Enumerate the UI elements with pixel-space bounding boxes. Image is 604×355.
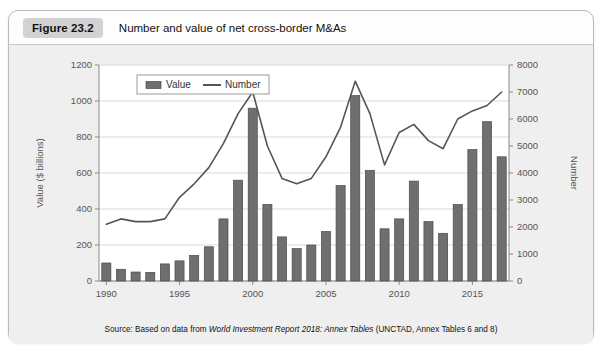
source-note: Source: Based on data from World Investm… — [9, 325, 593, 335]
y-axis-title-left: Value ($ billions) — [34, 138, 45, 208]
y-axis-title-right: Number — [569, 156, 580, 190]
legend-label-value: Value — [166, 79, 191, 90]
y-tick-label-right: 6000 — [517, 113, 538, 124]
figure-body: 0200400600800100012000100020003000400050… — [9, 45, 593, 344]
source-suffix: (UNCTAD, Annex Tables 6 and 8) — [373, 325, 497, 334]
x-tick-label: 2010 — [389, 288, 410, 299]
bar-value — [102, 263, 111, 281]
y-tick-label-right: 4000 — [517, 167, 538, 178]
bar-value — [409, 181, 418, 281]
bar-value — [234, 180, 243, 281]
bar-value — [336, 186, 345, 281]
figure-header: Figure 23.2 Number and value of net cros… — [9, 11, 593, 45]
bar-value — [321, 232, 330, 282]
y-tick-label-left: 800 — [76, 131, 92, 142]
bar-value — [175, 261, 184, 281]
bar-value — [482, 122, 491, 281]
dual-axis-chart: 0200400600800100012000100020003000400050… — [21, 51, 583, 315]
bar-value — [424, 222, 433, 281]
y-tick-label-left: 1000 — [71, 95, 92, 106]
y-tick-label-right: 8000 — [517, 59, 538, 70]
bar-value — [468, 150, 477, 281]
x-tick-label: 1995 — [169, 288, 190, 299]
figure-number-badge: Figure 23.2 — [23, 18, 103, 38]
figure-title: Number and value of net cross-border M&A… — [119, 22, 347, 34]
source-prefix: Source: Based on data from — [105, 325, 209, 334]
y-tick-label-right: 2000 — [517, 221, 538, 232]
y-tick-label-right: 3000 — [517, 194, 538, 205]
y-tick-label-left: 0 — [87, 275, 92, 286]
y-tick-label-left: 200 — [76, 239, 92, 250]
bar-value — [277, 237, 286, 281]
y-tick-label-left: 600 — [76, 167, 92, 178]
bar-value — [292, 249, 301, 281]
bar-value — [380, 229, 389, 281]
bar-value — [219, 219, 228, 281]
y-tick-label-right: 5000 — [517, 140, 538, 151]
legend-label-number: Number — [225, 79, 261, 90]
bar-value — [131, 272, 140, 281]
bar-value — [190, 255, 199, 281]
x-tick-label: 2000 — [242, 288, 263, 299]
y-tick-label-right: 7000 — [517, 86, 538, 97]
bar-value — [160, 264, 169, 281]
figure-card: Figure 23.2 Number and value of net cros… — [8, 10, 594, 343]
bar-value — [248, 108, 257, 281]
bar-value — [453, 205, 462, 282]
x-tick-label: 1990 — [96, 288, 117, 299]
chart-container: 0200400600800100012000100020003000400050… — [21, 51, 583, 315]
y-tick-label-right: 0 — [517, 275, 522, 286]
y-tick-label-left: 400 — [76, 203, 92, 214]
bar-value — [497, 157, 506, 281]
bar-value — [146, 272, 155, 281]
source-publication: World Investment Report 2018: Annex Tabl… — [209, 325, 374, 334]
bar-value — [365, 170, 374, 281]
bar-value — [351, 96, 360, 281]
bar-value — [116, 269, 125, 281]
legend-swatch-value — [146, 82, 161, 89]
bar-value — [307, 245, 316, 281]
bar-value — [395, 219, 404, 281]
y-tick-label-left: 1200 — [71, 59, 92, 70]
bar-value — [439, 233, 448, 281]
y-tick-label-right: 1000 — [517, 248, 538, 259]
x-tick-label: 2005 — [315, 288, 336, 299]
bar-value — [263, 205, 272, 282]
bar-value — [204, 247, 213, 281]
x-tick-label: 2015 — [462, 288, 483, 299]
